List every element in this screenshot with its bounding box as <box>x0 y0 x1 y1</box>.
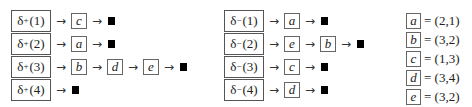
legend-node: a <box>406 13 421 29</box>
arrow-icon: → <box>300 37 320 51</box>
null-terminator-icon <box>180 63 187 71</box>
legend-node: e <box>406 89 421 105</box>
delta-minus-head-1: δ−(1) <box>224 10 264 32</box>
null-terminator-icon <box>72 86 79 94</box>
null-terminator-icon <box>321 86 328 94</box>
arrow-icon: → <box>300 60 320 74</box>
null-terminator-icon <box>357 40 364 48</box>
delta-plus-head-4: δ+(4) <box>11 79 51 101</box>
arrow-icon: → <box>87 14 107 28</box>
list-node: c <box>71 13 87 29</box>
legend-row-a: a = (2,1) <box>406 12 460 29</box>
list-node: d <box>107 59 123 75</box>
list-node: e <box>284 36 300 52</box>
null-terminator-icon <box>108 40 115 48</box>
delta-plus-head-2: δ+(2) <box>11 33 51 55</box>
list-node: a <box>71 36 87 52</box>
arrow-icon: → <box>51 83 71 97</box>
null-terminator-icon <box>108 17 115 25</box>
delta-minus-row-1: δ−(1) → a → <box>224 10 328 32</box>
delta-plus-row-3: δ+(3) → b → d → e → <box>11 56 187 78</box>
arrow-icon: → <box>159 60 179 74</box>
legend-value: = (3,2) <box>424 32 460 48</box>
legend-row-c: c = (1,3) <box>406 50 460 67</box>
arrow-icon: → <box>264 60 284 74</box>
legend-row-e: e = (3,2) <box>406 88 460 105</box>
arrow-icon: → <box>300 14 320 28</box>
arrow-icon: → <box>87 37 107 51</box>
null-terminator-icon <box>321 63 328 71</box>
list-node: a <box>284 13 300 29</box>
null-terminator-icon <box>321 17 328 25</box>
arrow-icon: → <box>51 14 71 28</box>
legend-value: = (3,4) <box>424 70 460 86</box>
list-node: e <box>143 59 159 75</box>
list-node: c <box>284 59 300 75</box>
list-node: b <box>71 59 87 75</box>
delta-minus-row-4: δ−(4) → d → <box>224 79 328 101</box>
legend-row-b: b = (3,2) <box>406 31 460 48</box>
legend-row-d: d = (3,4) <box>406 69 460 86</box>
delta-plus-row-1: δ+(1) → c → <box>11 10 115 32</box>
legend-value: = (1,3) <box>424 51 460 67</box>
delta-minus-head-2: δ−(2) <box>224 33 264 55</box>
arrow-icon: → <box>87 60 107 74</box>
arrow-icon: → <box>300 83 320 97</box>
delta-plus-row-2: δ+(2) → a → <box>11 33 115 55</box>
arrow-icon: → <box>264 83 284 97</box>
list-node: d <box>284 82 300 98</box>
list-node: b <box>320 36 336 52</box>
arrow-icon: → <box>336 37 356 51</box>
arrow-icon: → <box>51 37 71 51</box>
delta-minus-head-4: δ−(4) <box>224 79 264 101</box>
delta-minus-row-2: δ−(2) → e → b → <box>224 33 364 55</box>
arrow-icon: → <box>264 37 284 51</box>
legend-node: d <box>406 70 421 86</box>
arrow-icon: → <box>264 14 284 28</box>
legend-node: c <box>406 51 421 67</box>
legend-value: = (2,1) <box>424 13 460 29</box>
legend-value: = (3,2) <box>424 89 460 105</box>
arrow-icon: → <box>51 60 71 74</box>
delta-minus-row-3: δ−(3) → c → <box>224 56 328 78</box>
arrow-icon: → <box>123 60 143 74</box>
legend-node: b <box>406 32 421 48</box>
delta-plus-row-4: δ+(4) → <box>11 79 79 101</box>
delta-plus-head-3: δ+(3) <box>11 56 51 78</box>
delta-plus-head-1: δ+(1) <box>11 10 51 32</box>
delta-minus-head-3: δ−(3) <box>224 56 264 78</box>
